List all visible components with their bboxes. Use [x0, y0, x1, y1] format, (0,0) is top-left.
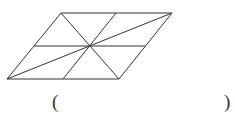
figure-segment: [7, 13, 172, 79]
answer-blank[interactable]: [64, 94, 219, 112]
answer-open-paren: (: [52, 92, 58, 111]
answer-close-paren: ): [224, 92, 230, 111]
